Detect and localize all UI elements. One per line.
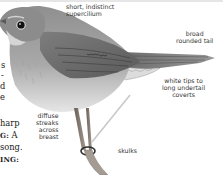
body-text-span: A: [9, 130, 18, 140]
body-text-line: -: [1, 70, 4, 80]
body-text-line: e: [0, 92, 5, 102]
field-guide-page: short, indistinct supercilium broad roun…: [0, 0, 223, 175]
body-text-line: ING:: [0, 154, 19, 164]
bird-leg: [74, 108, 86, 150]
body-text-line: song.: [0, 142, 23, 152]
bird-eye: [17, 21, 24, 28]
annotation-undertail-coverts: white tips to long undertail coverts: [162, 77, 205, 98]
annotation-breast-streaks: diffuse streaks across breast: [36, 112, 58, 140]
perch-branch: [84, 150, 108, 175]
body-text-line: s: [1, 60, 5, 70]
body-text-line: harp: [0, 118, 20, 128]
annotation-supercilium: short, indistinct supercilium: [66, 3, 114, 17]
body-text-line: G: A: [0, 130, 18, 140]
annotation-tail: broad rounded tail: [176, 30, 213, 44]
body-text-bold: ING:: [0, 155, 19, 164]
body-text-line: d: [0, 81, 5, 91]
body-text-bold: G:: [0, 131, 9, 140]
annotation-behaviour: skulks: [118, 147, 137, 154]
